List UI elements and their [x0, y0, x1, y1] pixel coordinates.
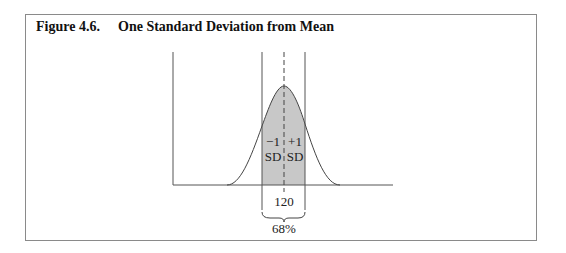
minus-1-label: −1	[266, 134, 280, 149]
plus-1-label: +1	[288, 134, 302, 149]
percent-label: 68%	[272, 221, 296, 236]
plus-sd-label: SD	[287, 149, 304, 164]
mean-value-label: 120	[274, 194, 294, 209]
normal-distribution-chart: −1 SD +1 SD 120 68%	[0, 0, 566, 253]
minus-sd-label: SD	[265, 149, 282, 164]
